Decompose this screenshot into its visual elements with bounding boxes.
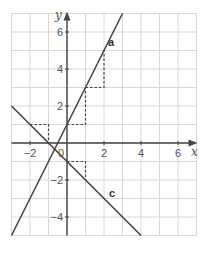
- y-axis-arrow-icon: [64, 12, 71, 21]
- y-axis-label: y: [54, 8, 62, 22]
- y-tick-label: 4: [57, 63, 63, 75]
- y-tick-label: 2: [57, 100, 63, 112]
- y-tick-label: −2: [50, 174, 63, 186]
- x-tick-label: 6: [175, 147, 181, 159]
- x-tick-label: −2: [24, 147, 37, 159]
- x-axis-label: x: [191, 145, 198, 159]
- line-c-label: c: [109, 187, 115, 199]
- y-tick-label: 6: [57, 26, 63, 38]
- line-c: [12, 106, 142, 236]
- line-a-label: a: [108, 36, 115, 48]
- origin-label: 0: [58, 147, 64, 159]
- y-tick-label: −4: [50, 211, 63, 223]
- coordinate-graph: −2246642−2−4 x y 0 a c: [0, 0, 202, 255]
- x-tick-label: 4: [138, 147, 144, 159]
- x-tick-label: 2: [101, 147, 107, 159]
